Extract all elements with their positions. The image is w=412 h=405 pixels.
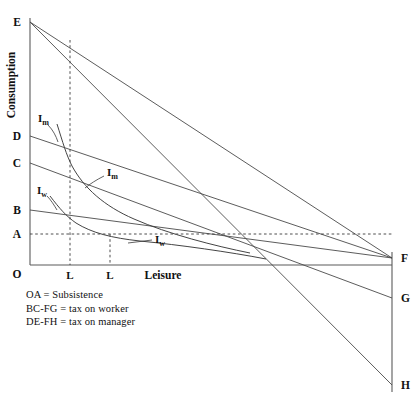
svg-text:Iw: Iw xyxy=(37,184,47,199)
curve-label-Im-upper: Im xyxy=(38,112,49,127)
svg-text:Im: Im xyxy=(38,112,49,127)
axis-origin-label: O xyxy=(13,268,22,280)
budget-line-EH xyxy=(30,22,392,385)
x-axis-title: Leisure xyxy=(145,269,182,281)
curve-label-Im-right-sub: m xyxy=(111,172,118,181)
curve-label-Im-right: Im xyxy=(107,166,118,181)
legend-line-tax-on-worker: BC-FG = tax on worker xyxy=(26,302,135,316)
curve-label-Iw-right: Iw xyxy=(155,233,165,248)
labor-supply-diagram: E D C B A O F G H L L Leisure Consumptio… xyxy=(0,0,412,405)
curve-label-Iw-right-sub: w xyxy=(159,239,165,248)
axis-point-label-E: E xyxy=(13,16,21,28)
y-axis-title: Consumption xyxy=(5,51,18,118)
x-tick-label-L2: L xyxy=(106,269,113,281)
indifference-curve-Im xyxy=(57,124,250,253)
axis-point-label-B: B xyxy=(13,204,21,216)
leader-Im-upper xyxy=(48,125,58,142)
legend-line-tax-on-manager: DE-FH = tax on manager xyxy=(26,315,135,329)
axis-point-label-D: D xyxy=(13,130,21,142)
axis-point-label-H: H xyxy=(401,379,410,391)
svg-text:Iw: Iw xyxy=(155,233,165,248)
svg-text:Im: Im xyxy=(107,166,118,181)
curve-label-Iw-upper: Iw xyxy=(37,184,47,199)
budget-line-DF xyxy=(30,136,392,258)
x-tick-label-L1: L xyxy=(66,269,73,281)
leader-Im-right xyxy=(85,176,104,188)
axis-point-label-A: A xyxy=(13,228,22,240)
curve-label-Im-upper-sub: m xyxy=(42,118,49,127)
legend-line-subsistence: OA = Subsistence xyxy=(26,288,135,302)
diagram-canvas: E D C B A O F G H L L Leisure Consumptio… xyxy=(0,0,412,405)
legend-notes: OA = Subsistence BC-FG = tax on worker D… xyxy=(26,288,135,329)
axis-point-label-F: F xyxy=(401,252,408,264)
axis-point-label-G: G xyxy=(401,292,410,304)
budget-line-EF xyxy=(30,22,392,258)
curve-label-Iw-upper-sub: w xyxy=(41,190,47,199)
axis-point-label-C: C xyxy=(13,157,21,169)
